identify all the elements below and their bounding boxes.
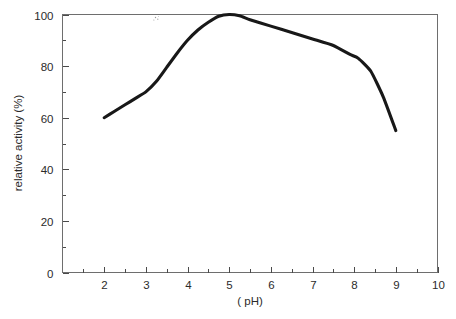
x-tick-label: 6 — [268, 279, 274, 291]
x-axis-title: ( pH) — [237, 295, 263, 307]
x-tick-label: 4 — [185, 279, 192, 291]
scan-artifact — [153, 16, 159, 21]
data-curve-relative-activity — [104, 14, 396, 130]
chart-figure: 020406080100 2345678910 ( pH) relative a… — [0, 0, 456, 319]
y-axis: 020406080100 — [34, 10, 68, 280]
x-tick-label: 5 — [226, 279, 232, 291]
y-tick-label: 100 — [34, 10, 53, 22]
y-tick-label: 60 — [41, 113, 54, 125]
y-tick-label: 80 — [41, 61, 54, 73]
x-tick-label: 2 — [101, 279, 107, 291]
x-tick-label: 8 — [351, 279, 357, 291]
x-tick-label: 7 — [310, 279, 316, 291]
data-series-group — [104, 14, 396, 130]
plot-canvas: 020406080100 2345678910 ( pH) relative a… — [0, 0, 456, 319]
x-axis: 2345678910 — [84, 267, 445, 291]
y-tick-label: 20 — [41, 216, 54, 228]
x-tick-label: 3 — [143, 279, 149, 291]
y-axis-title: relative activity (%) — [12, 95, 24, 192]
y-tick-label: 40 — [41, 164, 54, 176]
x-tick-label: 10 — [432, 279, 445, 291]
y-tick-label: 0 — [47, 268, 53, 280]
x-tick-label: 9 — [393, 279, 399, 291]
plot-frame — [63, 15, 438, 273]
